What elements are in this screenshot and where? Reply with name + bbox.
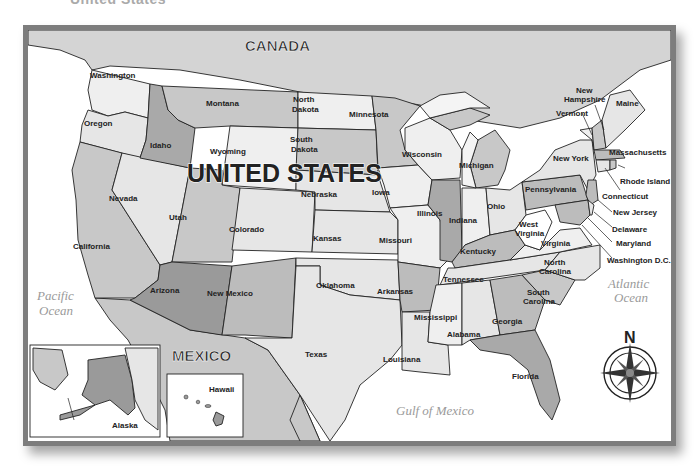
label-south-carolina-1: South: [527, 288, 550, 297]
label-louisiana: Louisiana: [383, 355, 421, 364]
label-ohio: Ohio: [487, 202, 505, 211]
label-indiana: Indiana: [449, 216, 478, 225]
label-pennsylvania: Pennsylvania: [525, 185, 577, 194]
label-utah: Utah: [169, 213, 187, 222]
label-south-carolina-2: Carolina: [523, 297, 556, 306]
label-alabama: Alabama: [447, 330, 481, 339]
label-georgia: Georgia: [492, 317, 523, 326]
label-new-york: New York: [553, 154, 589, 163]
alaska-inset: [30, 345, 160, 437]
label-north-dakota-2: Dakota: [292, 105, 319, 114]
label-maine: Maine: [616, 99, 639, 108]
label-minnesota: Minnesota: [349, 110, 389, 119]
label-north-carolina-1: North: [544, 258, 565, 267]
compass-north-label: N: [624, 329, 636, 346]
state-new-mexico: [222, 258, 296, 338]
label-vermont: Vermont: [556, 109, 588, 118]
label-hawaii: Hawaii: [209, 385, 234, 394]
state-kansas: [312, 210, 398, 254]
label-gulf: Gulf of Mexico: [396, 403, 474, 418]
label-pacific-1: Pacific: [36, 288, 74, 303]
label-wisconsin: Wisconsin: [402, 150, 442, 159]
label-virginia: Virginia: [541, 239, 571, 248]
label-atlantic-1: Atlantic: [607, 276, 649, 291]
label-new-hampshire-1: New: [576, 86, 593, 95]
hawaii-inset: [167, 374, 243, 437]
label-west-virginia-2: Virginia: [515, 229, 545, 238]
label-connecticut: Connecticut: [602, 192, 649, 201]
label-iowa: Iowa: [372, 188, 390, 197]
state-rhode-island: [610, 160, 616, 170]
label-colorado: Colorado: [229, 225, 264, 234]
label-mississippi: Mississippi: [414, 313, 457, 322]
label-tennessee: Tennessee: [443, 275, 484, 284]
label-california: California: [73, 242, 110, 251]
label-new-hampshire-2: Hampshire: [564, 95, 606, 104]
state-maryland: [555, 200, 590, 225]
label-texas: Texas: [305, 350, 328, 359]
label-montana: Montana: [206, 99, 239, 108]
label-nebraska: Nebraska: [301, 190, 338, 199]
label-massachusetts: Massachusetts: [609, 148, 667, 157]
compass-rose: [600, 343, 660, 403]
label-new-mexico: New Mexico: [207, 289, 253, 298]
label-michigan: Michigan: [459, 161, 494, 170]
label-delaware: Delaware: [612, 225, 648, 234]
us-map: CANADA MEXICO UNITED STATES Washington O…: [28, 30, 671, 441]
label-mexico: MEXICO: [172, 347, 232, 364]
label-south-dakota-2: Dakota: [291, 145, 318, 154]
label-arizona: Arizona: [150, 286, 180, 295]
label-washington: Washington: [90, 71, 136, 80]
label-oklahoma: Oklahoma: [316, 281, 355, 290]
label-rhode-island: Rhode Island: [620, 177, 670, 186]
label-south-dakota-1: South: [290, 135, 313, 144]
label-oregon: Oregon: [84, 119, 113, 128]
label-dc: Washington D.C.: [607, 256, 671, 265]
label-north-carolina-2: Carolina: [539, 267, 572, 276]
label-florida: Florida: [512, 372, 539, 381]
label-illinois: Illinois: [417, 209, 443, 218]
label-kansas: Kansas: [313, 234, 342, 243]
label-west-virginia-1: West: [519, 220, 538, 229]
label-alaska: Alaska: [112, 421, 138, 430]
label-canada: CANADA: [245, 37, 310, 54]
label-missouri: Missouri: [379, 236, 412, 245]
label-nevada: Nevada: [109, 194, 138, 203]
label-atlantic-2: Ocean: [614, 290, 648, 305]
label-arkansas: Arkansas: [377, 287, 414, 296]
label-new-jersey: New Jersey: [613, 208, 658, 217]
label-wyoming: Wyoming: [210, 147, 246, 156]
page-caption: United States: [70, 0, 166, 7]
state-connecticut: [596, 160, 610, 172]
map-title: UNITED STATES: [187, 159, 382, 187]
label-idaho: Idaho: [150, 141, 171, 150]
label-kentucky: Kentucky: [460, 247, 497, 256]
map-frame: CANADA MEXICO UNITED STATES Washington O…: [23, 25, 676, 446]
label-north-dakota-1: North: [293, 95, 314, 104]
label-pacific-2: Ocean: [39, 303, 73, 318]
label-maryland: Maryland: [616, 239, 651, 248]
